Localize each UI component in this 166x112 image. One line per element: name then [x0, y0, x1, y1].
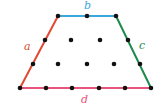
lattice-point — [85, 62, 90, 67]
lattice-point — [44, 86, 49, 91]
lattice-point — [18, 86, 23, 91]
side-label-a: a — [24, 41, 31, 52]
lattice-point — [138, 62, 143, 67]
side-label-b: b — [84, 0, 91, 11]
lattice-point — [114, 14, 119, 19]
lattice-point — [98, 38, 103, 43]
lattice-point — [112, 62, 117, 67]
interior-lattice-points — [56, 38, 117, 67]
lattice-point — [149, 86, 154, 91]
lattice-point — [97, 86, 102, 91]
lattice-point — [85, 14, 90, 19]
lattice-point — [56, 14, 61, 19]
lattice-point — [31, 62, 36, 67]
side-label-d: d — [81, 94, 88, 105]
side-label-c: c — [139, 40, 145, 51]
lattice-point — [70, 86, 75, 91]
lattice-point — [43, 38, 48, 43]
lattice-point — [126, 38, 131, 43]
lattice-polygon-figure: a b c d — [0, 0, 166, 112]
lattice-point — [56, 62, 61, 67]
lattice-point — [69, 38, 74, 43]
edge-c-line — [116, 16, 151, 88]
lattice-point — [123, 86, 128, 91]
